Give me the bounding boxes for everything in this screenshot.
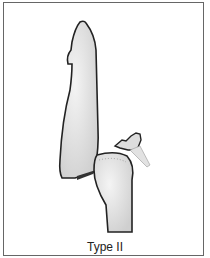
bone-illustration <box>0 0 210 258</box>
ligament <box>130 146 150 167</box>
figure-frame: Type II <box>0 0 210 258</box>
upper-bone-fragment <box>60 21 98 178</box>
figure-caption: Type II <box>0 240 210 254</box>
lower-bone <box>94 153 133 232</box>
